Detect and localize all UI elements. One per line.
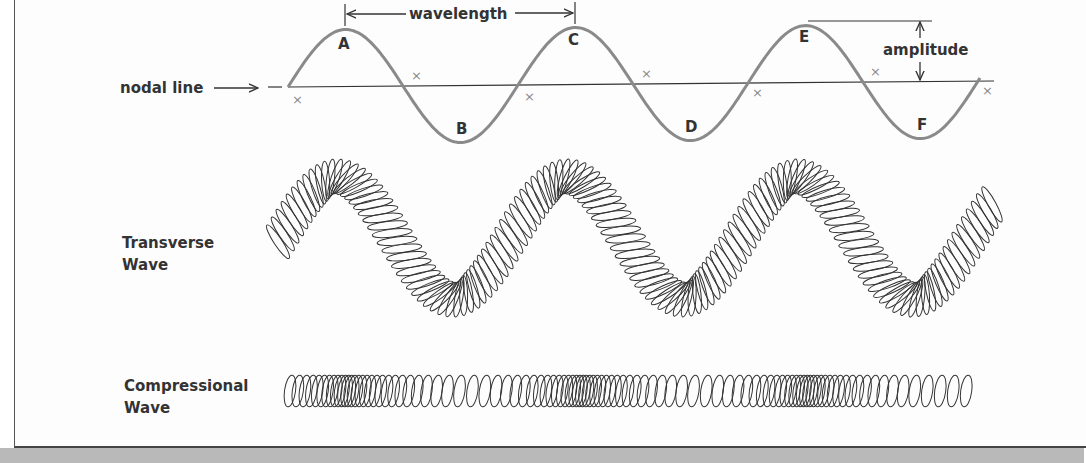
point-label-f: F [917,116,927,134]
point-label-c: C [568,31,579,49]
compressional-label-line1: Compressional [124,377,249,395]
nodal-line-label: nodal line [120,79,203,97]
sine-wave-diagram: nodal line wavelength amplitude A B C D … [120,2,994,143]
wavelength-label: wavelength [409,5,508,23]
amplitude-label: amplitude [883,41,969,59]
point-label-d: D [685,118,697,136]
compressional-wave-diagram: Compressional Wave [124,374,974,417]
compressional-label-line2: Wave [124,399,170,417]
compressional-spring [282,374,974,407]
node-marker: × [870,64,881,79]
node-marker: × [411,68,422,83]
point-label-a: A [338,35,350,53]
node-marker: × [752,85,763,100]
nodal-line [288,81,994,87]
point-label-e: E [799,28,809,46]
transverse-spring [264,158,1005,318]
sine-wave [288,26,980,143]
transverse-wave-diagram: Transverse Wave [122,158,1005,318]
node-marker: × [982,83,993,98]
node-marker: × [292,92,303,107]
point-label-b: B [456,120,467,138]
transverse-label-line1: Transverse [122,234,214,252]
node-marker: × [641,66,652,81]
node-marker: × [524,89,535,104]
transverse-label-line2: Wave [122,256,168,274]
